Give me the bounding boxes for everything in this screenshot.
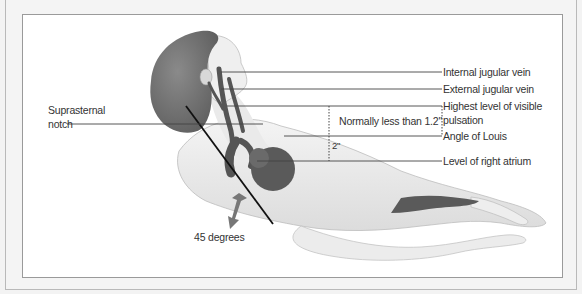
label-right-atrium: Level of right atrium: [443, 155, 531, 167]
label-highest-pulsation-line2: pulsation: [443, 114, 483, 126]
label-internal-jugular-vein: Internal jugular vein: [443, 66, 530, 78]
diagram-frame: [22, 14, 563, 278]
label-normal-range: Normally less than 1.2": [339, 115, 442, 127]
label-suprasternal-line2: notch: [48, 118, 73, 130]
label-suprasternal-line1: Suprasternal: [48, 104, 105, 116]
label-highest-pulsation-line1: Highest level of visible: [443, 100, 542, 112]
label-two-inch: 2": [332, 140, 340, 152]
label-angle-of-louis: Angle of Louis: [443, 130, 507, 142]
label-external-jugular-vein: External jugular vein: [443, 83, 534, 95]
label-45-degrees: 45 degrees: [194, 231, 245, 243]
jvp-illustration: [23, 15, 563, 278]
